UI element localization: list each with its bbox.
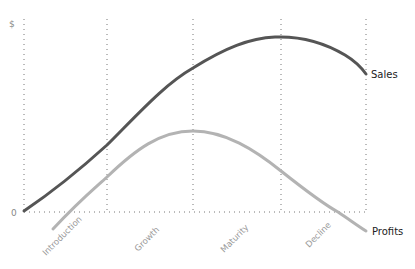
sales-label: Sales (371, 69, 398, 80)
profits-label: Profits (372, 226, 403, 237)
y-axis-label: $ (9, 19, 15, 29)
profits-curve (53, 131, 366, 231)
stage-label-maturity: Maturity (218, 222, 250, 254)
stage-label-growth: Growth (132, 225, 161, 254)
stage-gridlines (24, 19, 366, 212)
stage-label-decline: Decline (303, 220, 333, 250)
origin-label: 0 (11, 208, 17, 218)
product-life-cycle-chart: $ 0 Sales Profits Introduction Growth Ma… (0, 0, 415, 269)
sales-curve (24, 37, 366, 211)
